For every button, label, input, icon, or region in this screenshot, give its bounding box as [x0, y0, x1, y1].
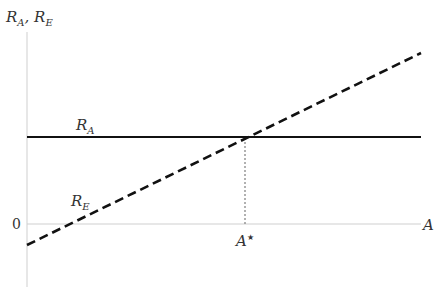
line-re-label: RE [70, 192, 90, 212]
line-re [27, 53, 421, 245]
y-axis-label: RA, RE [5, 8, 53, 28]
equilibrium-label: A★ [234, 232, 254, 250]
diagram-canvas: RA, RE RA RE 0 A★ A [0, 0, 445, 303]
x-axis-label: A [421, 216, 434, 234]
origin-label: 0 [12, 216, 21, 232]
line-ra-label: RA [75, 116, 95, 136]
